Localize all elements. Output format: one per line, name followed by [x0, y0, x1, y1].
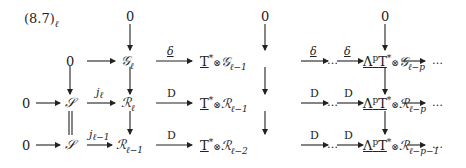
node-prefix: T [200, 96, 209, 111]
node-sub: ℓ−1 [231, 104, 248, 114]
arrow-label-D-3: D [344, 88, 353, 99]
node-prefix-sup: * [209, 95, 214, 105]
node-base: ℛ [116, 137, 126, 152]
otimes: ⊗ [213, 100, 221, 110]
node-sub: ℓ−p [409, 104, 426, 114]
node-prefix: T [200, 54, 209, 69]
node-prefix: Λ [363, 138, 372, 153]
node-prefix2: T [378, 96, 387, 111]
equation-number: (8.7) [24, 11, 55, 26]
arrow-label-D-2: D [310, 88, 319, 99]
node-prefix2: T [378, 54, 387, 69]
otimes: ⊗ [213, 58, 221, 68]
arrow-label-j-l-1: jℓ−1 [89, 129, 109, 140]
otimes: ⊗ [213, 142, 221, 152]
node-sub: ℓ [131, 103, 135, 113]
arrow-label-D-6: D [344, 130, 353, 141]
j-sub: ℓ [99, 90, 103, 100]
otimes: ⊗ [391, 100, 399, 110]
node-LpT-R-l-p: ΛpT*⊗ℛℓ−p [363, 97, 426, 110]
j-sub: ℓ−1 [92, 132, 109, 142]
node-prefix-sup: * [209, 137, 214, 147]
arrow-label-delta-2: δ [310, 46, 317, 57]
node-T-G-l-1: T*⊗𝒢ℓ−1 [200, 55, 247, 68]
arrow-label-j-l: jℓ [96, 87, 103, 98]
node-prefix: T [200, 138, 209, 153]
arrow-label-D-1: D [167, 88, 176, 99]
otimes: ⊗ [391, 142, 399, 152]
ellipsis-end-1: … [432, 55, 443, 66]
node-prefix-sup: p [372, 95, 378, 105]
node-prefix-sup: p [372, 53, 378, 63]
equation-label: (8.7)ℓ [24, 12, 59, 25]
node-LpT-G-l-p: ΛpT*⊗𝒢ℓ−p [320, 55, 382, 68]
node-base: ℛ [399, 138, 409, 153]
node-prefix: Λ [363, 54, 372, 69]
equation-sub: ℓ [55, 19, 59, 29]
node-T-R-l-1: T*⊗ℛℓ−1 [200, 97, 248, 110]
node-prefix2-sup: * [387, 137, 392, 147]
node-base: ℛ [121, 95, 131, 110]
arrow-label-D-4: D [167, 130, 176, 141]
row1-zero: 0 [66, 55, 74, 68]
top-zero-3: 0 [381, 10, 389, 23]
ellipsis-end-2: … [432, 97, 443, 108]
arrow-label-delta-1: δ [167, 46, 174, 57]
otimes: ⊗ [391, 58, 399, 68]
ellipsis-end-3: … [432, 139, 443, 150]
node-S-2: 𝒮 [65, 138, 75, 151]
ellipsis-2: … [327, 97, 338, 108]
node-prefix-sup: p [372, 137, 378, 147]
node-sub: ℓ−1 [230, 62, 247, 72]
node-base: 𝒢 [399, 54, 408, 69]
node-sub: ℓ [130, 61, 134, 71]
row3-zero: 0 [22, 139, 30, 152]
node-R-l-1: ℛℓ−1 [116, 138, 143, 151]
node-sub: ℓ−p [408, 62, 425, 72]
row2-zero: 0 [22, 97, 30, 110]
node-prefix: Λ [363, 96, 372, 111]
node-base: 𝒢 [221, 54, 230, 69]
node-G-l: 𝒢ℓ [121, 54, 134, 67]
node-sub: ℓ−1 [126, 145, 143, 155]
node-prefix-sup: * [209, 53, 214, 63]
top-zero-2: 0 [261, 10, 269, 23]
node-base: ℛ [221, 138, 231, 153]
node-T-R-l-2: T*⊗ℛℓ−2 [200, 139, 248, 152]
ellipsis-3: … [327, 139, 338, 150]
node-base: ℛ [221, 96, 231, 111]
top-zero-1: 0 [126, 10, 134, 23]
node-sub: ℓ−2 [231, 146, 248, 156]
node-R-l: ℛℓ [121, 96, 135, 109]
node-prefix2: T [378, 138, 387, 153]
node-base: ℛ [399, 96, 409, 111]
arrow-label-D-5: D [310, 130, 319, 141]
node-base: 𝒢 [121, 53, 130, 68]
node-prefix2-sup: * [387, 53, 392, 63]
node-LpT-R-l-p-1: ΛpT*⊗ℛℓ−p−1 [363, 139, 439, 152]
node-S: 𝒮 [65, 96, 75, 109]
node-prefix2-sup: * [387, 95, 392, 105]
